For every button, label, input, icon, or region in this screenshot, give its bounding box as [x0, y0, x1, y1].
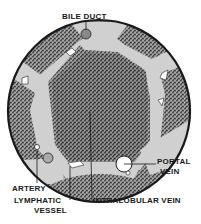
- label-artery: ARTERY: [12, 184, 46, 193]
- label-intralobular-vein: INTRALOBULAR VEIN: [93, 196, 181, 205]
- label-portal-vein-1: PORTAL: [157, 157, 191, 166]
- bile-duct-shape: [81, 29, 91, 39]
- artery-shape: [35, 145, 40, 150]
- label-bile-duct: BILE DUCT: [62, 12, 106, 21]
- label-lymphatic-2: VESSEL: [34, 206, 67, 215]
- label-portal-vein-2: VEIN: [160, 167, 179, 176]
- label-lymphatic-1: LYMPHATIC: [14, 196, 61, 205]
